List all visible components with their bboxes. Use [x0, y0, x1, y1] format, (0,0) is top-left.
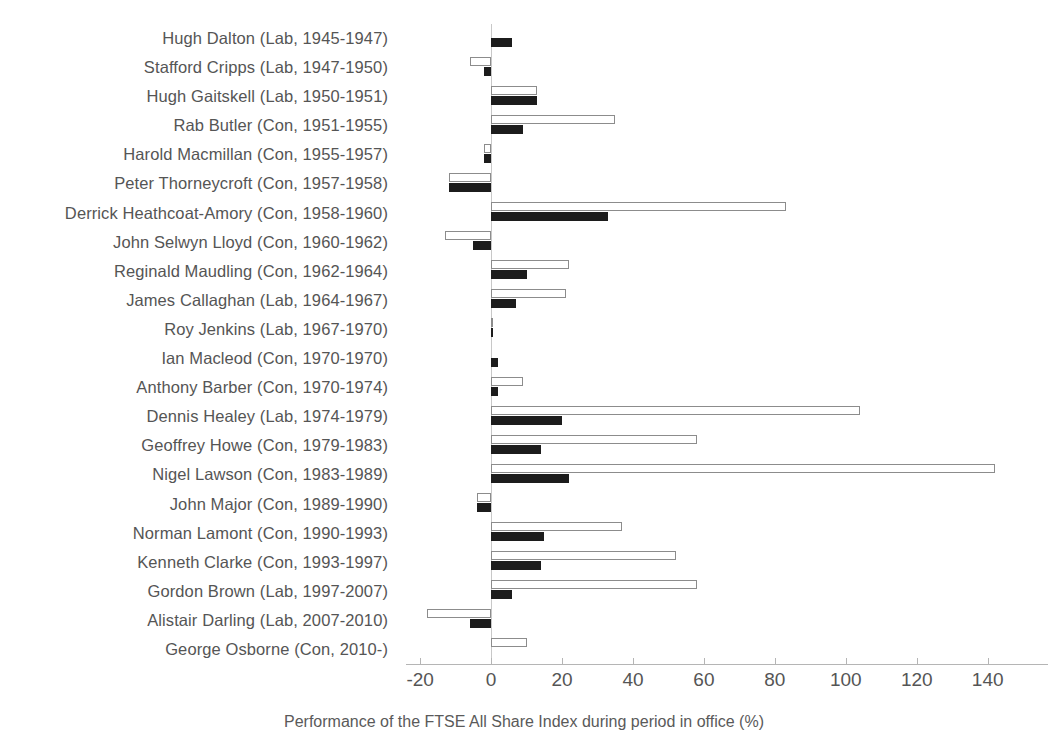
open-bar — [491, 580, 697, 589]
x-axis-tick-label: -20 — [406, 669, 433, 691]
category-label: John Selwyn Lloyd (Con, 1960-1962) — [0, 228, 398, 257]
category-label: Alistair Darling (Lab, 2007-2010) — [0, 606, 398, 635]
category-label: George Osborne (Con, 2010-) — [0, 635, 398, 664]
bar-row — [406, 606, 1048, 635]
bar-row — [406, 111, 1048, 140]
open-bar — [491, 260, 569, 269]
category-label: Rab Butler (Con, 1951-1955) — [0, 111, 398, 140]
filled-bar — [491, 387, 498, 396]
open-bar — [491, 435, 697, 444]
x-axis-tick — [562, 658, 563, 665]
open-bar — [470, 57, 491, 66]
bar-row — [406, 228, 1048, 257]
ftse-chancellor-bar-chart: Hugh Dalton (Lab, 1945-1947)Stafford Cri… — [0, 0, 1048, 731]
x-axis-tick-label: 100 — [830, 669, 862, 691]
bar-row — [406, 373, 1048, 402]
filled-bar — [491, 96, 537, 105]
x-axis-tick — [704, 658, 705, 665]
x-axis-tick — [420, 658, 421, 665]
filled-bar — [491, 299, 516, 308]
filled-bar — [484, 154, 491, 163]
plot-area — [406, 24, 1048, 664]
category-label: Harold Macmillan (Con, 1955-1957) — [0, 140, 398, 169]
bar-row — [406, 24, 1048, 53]
x-axis-tick — [846, 658, 847, 665]
open-bar — [491, 638, 526, 647]
category-label: Dennis Healey (Lab, 1974-1979) — [0, 402, 398, 431]
category-label: Roy Jenkins (Lab, 1967-1970) — [0, 315, 398, 344]
bar-row — [406, 490, 1048, 519]
filled-bar — [491, 416, 562, 425]
category-label: Norman Lamont (Con, 1990-1993) — [0, 519, 398, 548]
filled-bar — [484, 67, 491, 76]
bar-rows — [406, 24, 1048, 664]
x-axis-tick-label: 40 — [622, 669, 643, 691]
open-bar — [427, 609, 491, 618]
category-label: Reginald Maudling (Con, 1962-1964) — [0, 257, 398, 286]
filled-bar — [470, 619, 491, 628]
open-bar — [449, 173, 492, 182]
category-label: Geoffrey Howe (Con, 1979-1983) — [0, 431, 398, 460]
bar-row — [406, 519, 1048, 548]
bar-row — [406, 431, 1048, 460]
open-bar — [491, 289, 565, 298]
chart-caption: Performance of the FTSE All Share Index … — [0, 713, 1048, 731]
open-bar — [491, 464, 995, 473]
bar-row — [406, 53, 1048, 82]
category-label: James Callaghan (Lab, 1964-1967) — [0, 286, 398, 315]
category-label: Anthony Barber (Con, 1970-1974) — [0, 373, 398, 402]
open-bar — [491, 115, 615, 124]
open-bar — [491, 522, 622, 531]
filled-bar — [477, 503, 491, 512]
open-bar — [491, 86, 537, 95]
filled-bar — [491, 328, 493, 337]
bar-row — [406, 548, 1048, 577]
category-axis-labels: Hugh Dalton (Lab, 1945-1947)Stafford Cri… — [0, 24, 398, 664]
bar-row — [406, 286, 1048, 315]
filled-bar — [449, 183, 492, 192]
x-axis-line — [406, 664, 1048, 665]
x-axis-tick-label: 0 — [486, 669, 497, 691]
x-axis-tick-label: 140 — [972, 669, 1004, 691]
bar-row — [406, 344, 1048, 373]
x-axis-tick — [917, 658, 918, 665]
x-axis-tick — [491, 658, 492, 665]
x-axis-tick-label: 120 — [901, 669, 933, 691]
category-label: Stafford Cripps (Lab, 1947-1950) — [0, 53, 398, 82]
open-bar — [445, 231, 491, 240]
filled-bar — [473, 241, 491, 250]
bar-row — [406, 169, 1048, 198]
category-label: Nigel Lawson (Con, 1983-1989) — [0, 460, 398, 489]
open-bar — [491, 202, 785, 211]
bar-row — [406, 199, 1048, 228]
filled-bar — [491, 125, 523, 134]
category-label: Derrick Heathcoat-Amory (Con, 1958-1960) — [0, 199, 398, 228]
category-label: Gordon Brown (Lab, 1997-2007) — [0, 577, 398, 606]
filled-bar — [491, 270, 526, 279]
filled-bar — [491, 532, 544, 541]
open-bar — [484, 144, 491, 153]
bar-row — [406, 140, 1048, 169]
x-axis-tick-label: 20 — [551, 669, 572, 691]
filled-bar — [491, 358, 498, 367]
open-bar — [491, 318, 493, 327]
x-axis-tick-label: 60 — [693, 669, 714, 691]
open-bar — [491, 551, 675, 560]
category-label: Hugh Gaitskell (Lab, 1950-1951) — [0, 82, 398, 111]
bar-row — [406, 460, 1048, 489]
open-bar — [477, 493, 491, 502]
bar-row — [406, 635, 1048, 664]
category-label: Peter Thorneycroft (Con, 1957-1958) — [0, 169, 398, 198]
category-label: Kenneth Clarke (Con, 1993-1997) — [0, 548, 398, 577]
x-axis-tick — [775, 658, 776, 665]
bar-row — [406, 315, 1048, 344]
category-label: Hugh Dalton (Lab, 1945-1947) — [0, 24, 398, 53]
filled-bar — [491, 212, 608, 221]
open-bar — [491, 406, 860, 415]
x-axis-tick — [633, 658, 634, 665]
filled-bar — [491, 590, 512, 599]
open-bar — [491, 377, 523, 386]
x-axis-tick — [988, 658, 989, 665]
bar-row — [406, 402, 1048, 431]
category-label: John Major (Con, 1989-1990) — [0, 490, 398, 519]
